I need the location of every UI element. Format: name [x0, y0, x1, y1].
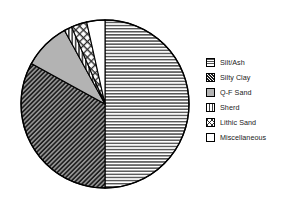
legend-label-silty-clay: Silty Clay: [220, 73, 250, 82]
legend-swatch-q-f-sand-icon: [206, 88, 215, 97]
pie-slice-silt-ash[interactable]: [105, 20, 189, 188]
legend-item-silty-clay[interactable]: Silty Clay: [206, 70, 286, 85]
legend-label-sherd: Sherd: [220, 103, 239, 112]
legend-item-q-f-sand[interactable]: Q-F Sand: [206, 85, 286, 100]
legend-label-lithic-sand: Lithic Sand: [220, 118, 256, 127]
legend-swatch-lithic-sand-icon: [206, 118, 215, 127]
legend-swatch-sherd-icon: [206, 103, 215, 112]
legend-item-miscellaneous[interactable]: Miscellaneous: [206, 130, 286, 145]
legend-item-lithic-sand[interactable]: Lithic Sand: [206, 115, 286, 130]
legend-swatch-silt-ash-icon: [206, 58, 215, 67]
legend-swatch-miscellaneous-icon: [206, 133, 215, 142]
legend-label-q-f-sand: Q-F Sand: [220, 88, 252, 97]
legend-item-silt-ash[interactable]: Silt/Ash: [206, 55, 286, 70]
legend-label-silt-ash: Silt/Ash: [220, 58, 245, 67]
legend-label-miscellaneous: Miscellaneous: [220, 133, 266, 142]
pie-slice-group: [21, 20, 189, 188]
legend-item-sherd[interactable]: Sherd: [206, 100, 286, 115]
chart-legend: Silt/AshSilty ClayQ-F SandSherdLithic Sa…: [206, 55, 286, 145]
pie-chart-figure: Silt/AshSilty ClayQ-F SandSherdLithic Sa…: [0, 0, 287, 208]
legend-swatch-silty-clay-icon: [206, 73, 215, 82]
